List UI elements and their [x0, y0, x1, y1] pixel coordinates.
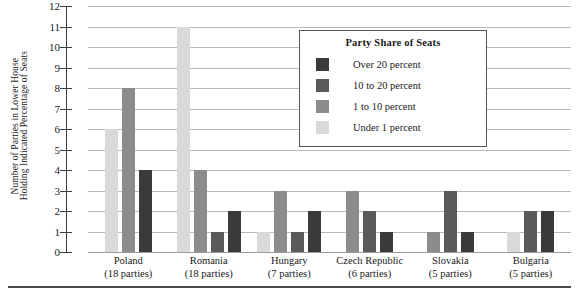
y-axis-tick — [60, 232, 72, 233]
bottom-rule — [8, 286, 571, 288]
y-axis-title: Number of Parties in Lower House Holding… — [0, 0, 40, 252]
y-axis-title-line-2: Holding Indicated Percentage of Seats — [20, 51, 30, 200]
bar[interactable] — [461, 232, 474, 253]
y-axis-tick — [60, 68, 72, 69]
y-axis-tick — [60, 211, 72, 212]
x-axis-category-count: (5 parties) — [410, 267, 491, 280]
legend-swatch — [316, 58, 329, 71]
y-axis-tick — [60, 27, 72, 28]
bar[interactable] — [541, 211, 554, 252]
x-axis-category-name: Romania — [190, 255, 228, 266]
x-axis-category-name: Slovakia — [432, 255, 469, 266]
bar[interactable] — [308, 211, 321, 252]
legend-swatch — [316, 121, 329, 134]
bar[interactable] — [380, 232, 393, 253]
x-axis-category-name: Hungary — [271, 255, 308, 266]
bar[interactable] — [211, 232, 224, 253]
x-axis-category-name: Poland — [114, 255, 143, 266]
bar-group — [88, 6, 169, 252]
legend-label: 1 to 10 percent — [353, 101, 416, 112]
bar[interactable] — [346, 191, 359, 253]
y-axis-tick — [60, 191, 72, 192]
x-axis-labels: Poland(18 parties)Romania(18 parties)Hun… — [88, 254, 571, 280]
y-axis-tick — [60, 88, 72, 89]
y-tick-label: 10 — [49, 42, 60, 53]
y-axis-tick — [60, 47, 72, 48]
bar-group — [169, 6, 250, 252]
legend-entry[interactable]: 1 to 10 percent — [300, 96, 486, 117]
x-axis-category-name: Bulgaria — [513, 255, 549, 266]
x-axis-label: Romania(18 parties) — [169, 254, 250, 280]
gridline — [88, 252, 571, 253]
y-axis-tick — [60, 170, 72, 171]
legend-label: Under 1 percent — [353, 122, 421, 133]
legend-title: Party Share of Seats — [300, 37, 486, 48]
x-axis-label: Bulgaria(5 parties) — [491, 254, 572, 280]
x-axis-label: Slovakia(5 parties) — [410, 254, 491, 280]
x-axis-category-count: (6 parties) — [330, 267, 411, 280]
bar[interactable] — [444, 191, 457, 253]
legend-label: Over 20 percent — [353, 59, 421, 70]
x-axis-category-count: (5 parties) — [491, 267, 572, 280]
legend-swatch — [316, 79, 329, 92]
bar[interactable] — [105, 129, 118, 252]
x-axis-category-count: (18 parties) — [169, 267, 250, 280]
bar[interactable] — [228, 211, 241, 252]
legend-label: 10 to 20 percent — [353, 80, 421, 91]
bar[interactable] — [274, 191, 287, 253]
x-axis-category-count: (18 parties) — [88, 267, 169, 280]
legend: Party Share of Seats Over 20 percent10 t… — [299, 30, 487, 147]
y-tick-label: 12 — [49, 1, 60, 12]
x-axis-label: Czech Republic(6 parties) — [330, 254, 411, 280]
bar[interactable] — [291, 232, 304, 253]
x-axis-label: Hungary(7 parties) — [249, 254, 330, 280]
bar-chart-figure: Number of Parties in Lower House Holding… — [0, 0, 579, 294]
y-axis-tick-labels: 0123456789101112 — [38, 0, 60, 252]
legend-entry[interactable]: Over 20 percent — [300, 54, 486, 75]
legend-entries: Over 20 percent10 to 20 percent1 to 10 p… — [300, 54, 486, 138]
bar[interactable] — [363, 211, 376, 252]
bar[interactable] — [427, 232, 440, 253]
y-tick-label: 11 — [49, 21, 60, 32]
bar[interactable] — [177, 27, 190, 253]
legend-entry[interactable]: 10 to 20 percent — [300, 75, 486, 96]
legend-swatch — [316, 100, 329, 113]
bar[interactable] — [257, 232, 270, 253]
x-axis-label: Poland(18 parties) — [88, 254, 169, 280]
bar-group — [491, 6, 572, 252]
x-axis-category-name: Czech Republic — [336, 255, 403, 266]
bar[interactable] — [139, 170, 152, 252]
bar[interactable] — [122, 88, 135, 252]
bar[interactable] — [507, 232, 520, 253]
y-axis-tick — [60, 150, 72, 151]
y-axis-tick — [60, 252, 72, 253]
y-axis-tick — [60, 129, 72, 130]
x-axis-category-count: (7 parties) — [249, 267, 330, 280]
bar[interactable] — [194, 170, 207, 252]
y-axis-tick — [60, 6, 72, 7]
y-axis-tick — [60, 109, 72, 110]
bar[interactable] — [524, 211, 537, 252]
legend-entry[interactable]: Under 1 percent — [300, 117, 486, 138]
